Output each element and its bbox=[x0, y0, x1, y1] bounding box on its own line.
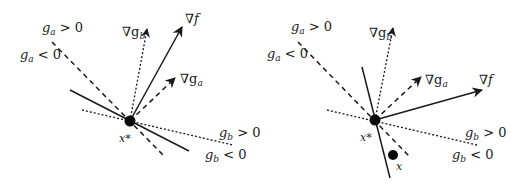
left-gb-pos-label: gb > 0 bbox=[219, 125, 261, 142]
kkt-diagram: ga > 0 ga < 0 ∇gb ∇f ∇ga x* gb > 0 gb < … bbox=[0, 0, 514, 188]
right-gb-boundary-line bbox=[327, 110, 477, 145]
left-ga-boundary-line bbox=[52, 42, 165, 157]
right-gb-neg-label: gb < 0 bbox=[452, 147, 494, 164]
left-gb-boundary-line bbox=[82, 110, 233, 145]
left-grad-ga-label: ∇ga bbox=[180, 71, 203, 88]
right-xstar-point bbox=[370, 115, 381, 126]
right-grad-f-label: ∇f bbox=[479, 72, 495, 87]
right-ga-neg-label: ga < 0 bbox=[267, 46, 308, 63]
left-panel: ga > 0 ga < 0 ∇gb ∇f ∇ga x* gb > 0 gb < … bbox=[20, 11, 261, 164]
left-grad-f-arrow bbox=[130, 27, 182, 121]
right-ga-boundary-line bbox=[298, 42, 410, 157]
right-xstar-label: x* bbox=[360, 131, 372, 144]
left-ga-pos-label: ga > 0 bbox=[42, 20, 83, 37]
right-gb-pos-label: gb > 0 bbox=[465, 125, 507, 142]
left-gb-neg-label: gb < 0 bbox=[205, 147, 247, 164]
left-ga-neg-label: ga < 0 bbox=[20, 47, 61, 64]
right-panel: ga > 0 ga < 0 ∇gb ∇ga ∇f x* x gb > 0 gb … bbox=[267, 19, 507, 178]
left-xstar-point bbox=[125, 116, 136, 127]
right-grad-ga-label: ∇ga bbox=[425, 72, 448, 89]
right-grad-gb-label: ∇gb bbox=[369, 25, 392, 42]
left-grad-gb-label: ∇gb bbox=[122, 24, 145, 41]
right-x-label: x bbox=[396, 160, 403, 173]
right-x-point bbox=[388, 150, 398, 160]
left-xstar-label: x* bbox=[119, 132, 131, 145]
right-ga-pos-label: ga > 0 bbox=[291, 19, 332, 36]
left-grad-f-label: ∇f bbox=[185, 11, 201, 26]
